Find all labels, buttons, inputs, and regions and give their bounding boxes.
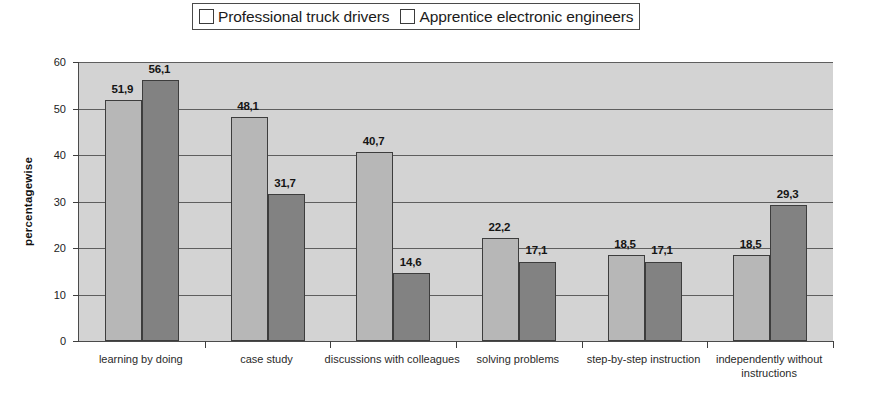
- chart-legend: Professional truck drivers Apprentice el…: [192, 3, 640, 30]
- bar-value-label: 29,3: [777, 188, 799, 200]
- x-axis-tick: [707, 341, 708, 348]
- y-axis-tick-label: 60: [26, 56, 66, 68]
- gridline: [79, 62, 833, 63]
- bar-value-label: 18,5: [740, 238, 762, 250]
- bar: [733, 255, 770, 341]
- y-axis-tick-label: 20: [26, 242, 66, 254]
- legend-entry-professional-truck-drivers: Professional truck drivers: [199, 8, 389, 26]
- legend-entry-apprentice-electronic-engineers: Apprentice electronic engineers: [400, 8, 633, 26]
- y-axis-tick: [73, 202, 79, 203]
- legend-label: Professional truck drivers: [218, 8, 389, 26]
- gridline: [79, 109, 833, 110]
- y-axis-tick: [73, 109, 79, 110]
- bar: [393, 273, 430, 341]
- y-axis-tick: [73, 62, 79, 63]
- bar: [356, 152, 393, 341]
- y-axis-tick-label: 10: [26, 289, 66, 301]
- plot-area: [78, 62, 833, 342]
- bar: [268, 194, 305, 341]
- bar: [608, 255, 645, 341]
- plot-inner: [79, 62, 833, 341]
- x-axis-tick: [582, 341, 583, 348]
- y-axis-tick: [73, 248, 79, 249]
- bar-value-label: 31,7: [274, 177, 296, 189]
- bar: [142, 80, 179, 341]
- bar-value-label: 48,1: [237, 100, 259, 112]
- bar: [105, 100, 142, 341]
- x-axis-tick: [330, 341, 331, 348]
- x-axis-category-label: independently without instructions: [694, 352, 844, 380]
- y-axis-tick: [73, 341, 79, 342]
- x-axis-tick: [833, 341, 834, 348]
- y-axis-tick: [73, 295, 79, 296]
- bar-value-label: 40,7: [363, 135, 385, 147]
- bar-chart-figure: Professional truck drivers Apprentice el…: [0, 0, 875, 408]
- y-axis-tick: [73, 155, 79, 156]
- bar-value-label: 14,6: [400, 256, 422, 268]
- legend-swatch-icon: [400, 9, 415, 24]
- x-axis-tick: [456, 341, 457, 348]
- bar: [482, 238, 519, 341]
- legend-label: Apprentice electronic engineers: [419, 8, 633, 26]
- bar-value-label: 56,1: [149, 63, 171, 75]
- gridline: [79, 295, 833, 296]
- gridline: [79, 155, 833, 156]
- y-axis-tick-label: 50: [26, 103, 66, 115]
- y-axis-tick-label: 30: [26, 196, 66, 208]
- bar-value-label: 22,2: [489, 221, 511, 233]
- bar: [645, 262, 682, 342]
- bar-value-label: 17,1: [526, 244, 548, 256]
- bar-value-label: 17,1: [651, 244, 673, 256]
- bar: [519, 262, 556, 342]
- y-axis-tick-label: 40: [26, 149, 66, 161]
- x-axis-tick: [205, 341, 206, 348]
- bar: [770, 205, 807, 341]
- bar: [231, 117, 268, 341]
- gridline: [79, 248, 833, 249]
- gridline: [79, 202, 833, 203]
- legend-swatch-icon: [199, 9, 214, 24]
- bar-value-label: 18,5: [614, 238, 636, 250]
- bar-value-label: 51,9: [112, 83, 134, 95]
- y-axis-tick-label: 0: [26, 335, 66, 347]
